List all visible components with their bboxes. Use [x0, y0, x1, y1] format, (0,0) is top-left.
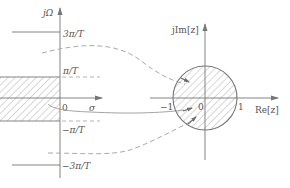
tick-label-minus-3pi: −3π/T — [62, 161, 91, 171]
tick-label-3pi: 3π/T — [63, 29, 85, 39]
re-z-axis-label: Re[z] — [255, 105, 279, 115]
im-z-axis-label: jIm[z] — [171, 25, 199, 35]
z-plane: jIm[z] −1 0 1 Re[z] — [150, 24, 279, 160]
z-origin-label: 0 — [198, 102, 204, 112]
tick-label-minus-one: −1 — [160, 102, 173, 112]
diagram-canvas: jΩ 3π/T π/T 0 σ −π/T −3π/T jIm[z] −1 0 1… — [0, 0, 290, 188]
s-plane-shaded-strip — [0, 77, 60, 121]
s-to-z-plane-mapping-diagram: jΩ 3π/T π/T 0 σ −π/T −3π/T jIm[z] −1 0 1… — [0, 0, 290, 188]
s-origin-label: 0 — [62, 103, 68, 113]
tick-label-minus-pi: −π/T — [62, 125, 85, 135]
tick-label-one: 1 — [238, 102, 244, 112]
jomega-axis-label: jΩ — [41, 8, 54, 18]
sigma-axis-label: σ — [89, 103, 96, 113]
tick-label-pi: π/T — [62, 66, 79, 76]
upper-dashed-mapping-curve — [42, 46, 185, 84]
s-plane: jΩ 3π/T π/T 0 σ −π/T −3π/T — [0, 8, 102, 178]
